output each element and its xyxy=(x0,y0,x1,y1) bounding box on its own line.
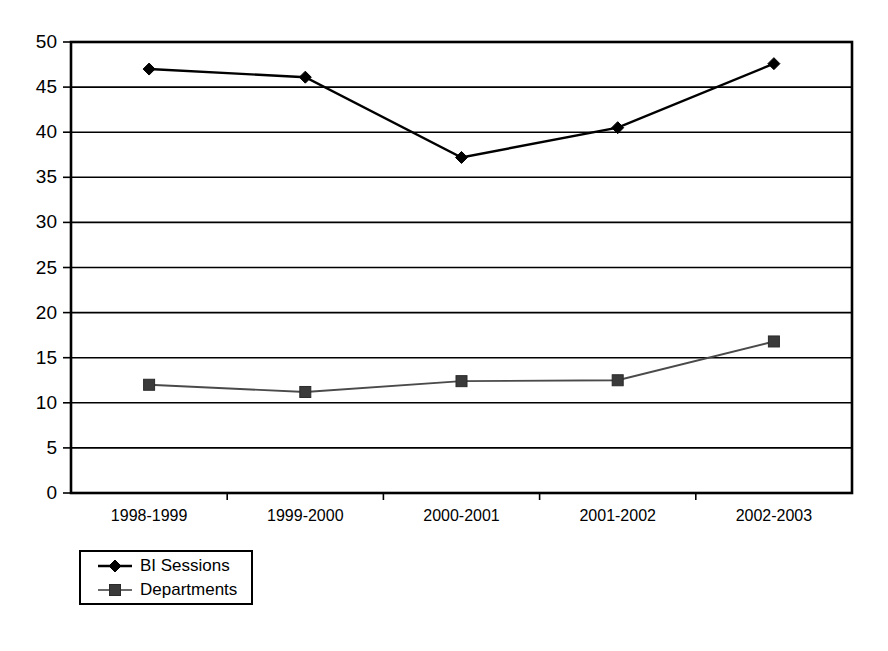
x-axis-labels-group: 1998-19991999-20002000-20012001-20022002… xyxy=(111,507,812,524)
y-tick-label: 10 xyxy=(36,392,57,413)
y-axis-labels-group: 05101520253035404550 xyxy=(36,31,57,503)
data-point-marker xyxy=(456,151,468,163)
legend-swatch-marker xyxy=(110,585,121,596)
x-tick-label: 1999-2000 xyxy=(267,507,344,524)
data-series-group xyxy=(143,58,780,398)
y-tick-label: 35 xyxy=(36,166,57,187)
x-tick-label: 2002-2003 xyxy=(736,507,813,524)
data-point-marker xyxy=(299,71,311,83)
x-tick-label: 1998-1999 xyxy=(111,507,188,524)
y-tick-label: 40 xyxy=(36,121,57,142)
y-tick-label: 25 xyxy=(36,257,57,278)
y-tick-label: 20 xyxy=(36,302,57,323)
line-chart: 05101520253035404550 1998-19991999-20002… xyxy=(0,0,888,651)
x-tick-label: 2001-2002 xyxy=(579,507,656,524)
chart-legend: BI SessionsDepartments xyxy=(80,551,252,604)
y-tick-label: 0 xyxy=(46,482,57,503)
legend-label: Departments xyxy=(140,580,237,599)
series-line-1 xyxy=(149,64,774,158)
chart-canvas: 05101520253035404550 1998-19991999-20002… xyxy=(0,0,888,651)
data-point-marker xyxy=(143,63,155,75)
y-tick-label: 30 xyxy=(36,211,57,232)
y-tick-label: 5 xyxy=(46,437,57,458)
data-point-marker xyxy=(456,376,467,387)
data-point-marker xyxy=(612,375,623,386)
x-tick-label: 2000-2001 xyxy=(423,507,500,524)
y-tick-label: 15 xyxy=(36,347,57,368)
data-point-marker xyxy=(144,379,155,390)
legend-label: BI Sessions xyxy=(140,556,230,575)
data-point-marker xyxy=(300,386,311,397)
y-tick-label: 45 xyxy=(36,76,57,97)
data-point-marker xyxy=(768,58,780,70)
data-point-marker xyxy=(768,336,779,347)
y-tick-label: 50 xyxy=(36,31,57,52)
